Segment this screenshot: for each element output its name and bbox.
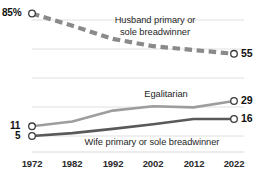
wife-start-value: 5 <box>15 130 20 141</box>
x-tick-1972: 1972 <box>17 158 47 169</box>
husband-start-value: 85% <box>2 7 21 18</box>
chart-container: 85% 55 11 29 5 16 Husband primary or sol… <box>0 0 271 176</box>
x-tick-1992: 1992 <box>98 158 128 169</box>
egalitarian-end-value: 29 <box>241 94 252 106</box>
x-tick-1982: 1982 <box>57 158 87 169</box>
wife-end-value: 16 <box>241 112 252 124</box>
husband-end-value: 55 <box>241 47 252 59</box>
series-egalitarian <box>32 101 234 126</box>
gridlines <box>32 20 244 152</box>
x-tick-2022: 2022 <box>219 158 249 169</box>
x-tick-2012: 2012 <box>179 158 209 169</box>
egalitarian-annotation: Egalitarian <box>128 89 204 101</box>
wife-annotation: Wife primary or sole breadwinner <box>78 137 226 149</box>
x-tick-2002: 2002 <box>138 158 168 169</box>
husband-annotation-line1: Husband primary or <box>115 15 196 25</box>
husband-annotation-line2: sole breadwinner <box>120 27 190 37</box>
husband-annotation: Husband primary or sole breadwinner <box>105 15 205 38</box>
